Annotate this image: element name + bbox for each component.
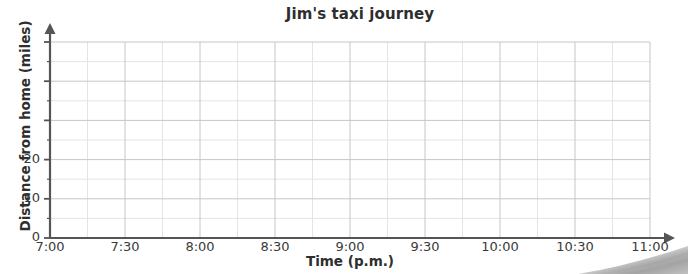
x-tick-label: 7:30	[95, 239, 155, 254]
x-tick-label: 10:00	[470, 239, 530, 254]
y-tick-label: 20	[0, 151, 40, 166]
x-tick-label: 10:30	[545, 239, 605, 254]
axis-lines	[45, 23, 676, 244]
x-tick-label: 8:30	[245, 239, 305, 254]
x-tick-label: 9:00	[320, 239, 380, 254]
y-tick-label: 10	[0, 190, 40, 205]
x-tick-label: 8:00	[170, 239, 230, 254]
chart-page: Jim's taxi journey Distance from home (m…	[0, 0, 688, 274]
x-tick-label: 11:00	[620, 239, 680, 254]
y-tick-label: 0	[0, 229, 40, 244]
x-tick-label: 9:30	[395, 239, 455, 254]
chart-plot-area	[0, 0, 688, 274]
